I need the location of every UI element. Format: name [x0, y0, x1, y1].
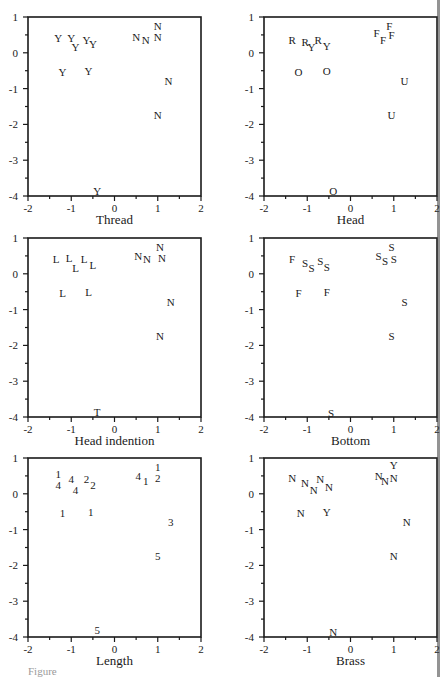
y-tick-label: 1: [249, 452, 255, 464]
y-tick-label: 0: [13, 47, 19, 59]
y-tick-label: -3: [245, 595, 255, 607]
data-point-marker: O: [329, 185, 337, 197]
data-point-marker: N: [134, 250, 142, 262]
y-tick-label: -1: [9, 83, 18, 95]
y-tick-label: -4: [9, 190, 19, 202]
data-point-marker: N: [297, 507, 305, 519]
data-point-marker: T: [94, 406, 101, 418]
data-point-marker: L: [72, 262, 79, 274]
data-point-marker: Y: [323, 506, 331, 518]
data-point-marker: N: [301, 477, 309, 489]
scatter-panel-head-indention: -2-101210-1-2-3-4Head indentionLLLLLLLNN…: [0, 221, 220, 443]
data-point-marker: S: [376, 250, 382, 262]
y-tick-label: -2: [9, 559, 18, 571]
data-point-marker: O: [323, 65, 331, 77]
data-point-marker: N: [403, 516, 411, 528]
x-tick-label: -2: [259, 643, 268, 655]
y-tick-label: 1: [249, 232, 255, 244]
data-point-marker: N: [156, 330, 164, 342]
y-tick-label: -2: [9, 118, 18, 130]
data-point-marker: F: [389, 29, 395, 41]
x-tick-label: -2: [23, 643, 32, 655]
y-tick-label: 0: [249, 47, 255, 59]
y-tick-label: -4: [245, 411, 255, 423]
data-point-marker: N: [390, 472, 398, 484]
data-point-marker: U: [388, 109, 396, 121]
y-tick-label: 1: [13, 11, 19, 23]
data-point-marker: S: [309, 262, 315, 274]
data-point-marker: 2: [84, 473, 90, 485]
data-point-marker: N: [288, 472, 296, 484]
data-point-marker: 2: [90, 479, 96, 491]
data-point-marker: N: [165, 75, 173, 87]
x-axis-title: Brass: [336, 653, 365, 668]
data-point-marker: N: [329, 626, 337, 638]
data-point-marker: N: [310, 484, 318, 496]
data-point-marker: S: [302, 257, 308, 269]
y-tick-label: -4: [245, 190, 255, 202]
x-tick-label: -1: [67, 202, 76, 214]
y-tick-label: 0: [249, 488, 255, 500]
data-point-marker: L: [90, 259, 97, 271]
y-tick-label: -3: [9, 595, 19, 607]
data-point-marker: Y: [323, 40, 331, 52]
y-tick-label: -1: [9, 524, 18, 536]
scatter-plot: -2-101210-1-2-3-4ThreadYYYYYYYNNNNNNY: [0, 0, 220, 222]
y-tick-label: -1: [9, 304, 18, 316]
data-point-marker: N: [154, 109, 162, 121]
y-tick-label: -4: [245, 631, 255, 643]
data-point-marker: 5: [94, 624, 100, 636]
y-tick-label: 0: [13, 268, 19, 280]
data-point-marker: N: [154, 31, 162, 43]
data-point-marker: N: [390, 550, 398, 562]
x-tick-label: 1: [155, 423, 161, 435]
x-tick-label: -2: [259, 202, 268, 214]
data-point-marker: Y: [85, 65, 93, 77]
y-tick-label: 0: [13, 488, 19, 500]
data-point-marker: N: [143, 253, 151, 265]
plot-frame: [28, 458, 201, 637]
scatter-panel-bottom: -2-101210-1-2-3-4BottomFSSSSFFSSSSSSS: [236, 221, 440, 443]
data-point-marker: L: [53, 253, 60, 265]
y-tick-label: 1: [13, 452, 19, 464]
data-point-marker: N: [132, 31, 140, 43]
y-tick-label: -3: [245, 154, 255, 166]
x-tick-label: 1: [155, 202, 161, 214]
y-tick-label: -1: [245, 83, 254, 95]
data-point-marker: S: [324, 261, 330, 273]
scatter-panel-thread: -2-101210-1-2-3-4ThreadYYYYYYYNNNNNNY: [0, 0, 220, 222]
data-point-marker: U: [401, 75, 409, 87]
data-point-marker: Y: [390, 459, 398, 471]
data-point-marker: Y: [59, 66, 67, 78]
data-point-marker: R: [288, 34, 296, 46]
data-point-marker: S: [328, 407, 334, 419]
x-tick-label: -1: [303, 423, 312, 435]
data-point-marker: S: [382, 255, 388, 267]
data-point-marker: L: [59, 287, 66, 299]
data-point-marker: 1: [60, 507, 66, 519]
y-tick-label: -2: [245, 339, 254, 351]
y-tick-label: -1: [245, 304, 254, 316]
scatter-panel-head: -2-101210-1-2-3-4HeadRRYRYOOFFFFUUO: [236, 0, 440, 222]
scatter-plot: -2-101210-1-2-3-4Head indentionLLLLLLLNN…: [0, 221, 220, 443]
data-point-marker: S: [391, 253, 397, 265]
data-point-marker: R: [314, 34, 322, 46]
x-tick-label: 1: [391, 423, 397, 435]
x-tick-label: -1: [303, 643, 312, 655]
data-point-marker: Y: [89, 38, 97, 50]
y-tick-label: 1: [13, 232, 19, 244]
data-point-marker: 2: [155, 472, 161, 484]
plot-frame: [264, 458, 437, 637]
scatter-plot: -2-101210-1-2-3-4BrassNNNNNNYNNYNNNN: [236, 441, 440, 677]
data-point-marker: L: [81, 253, 88, 265]
data-point-marker: N: [158, 252, 166, 264]
data-point-marker: 4: [56, 479, 62, 491]
x-axis-title: Length: [96, 653, 133, 668]
y-tick-label: -3: [245, 375, 255, 387]
scatter-plot: -2-101210-1-2-3-4HeadRRYRYOOFFFFUUO: [236, 0, 440, 222]
y-tick-label: -2: [9, 339, 18, 351]
scatter-panel-length: -2-101210-1-2-3-4Length144422114112355: [0, 441, 220, 677]
x-tick-label: 1: [391, 643, 397, 655]
data-point-marker: N: [316, 473, 324, 485]
data-point-marker: S: [402, 296, 408, 308]
